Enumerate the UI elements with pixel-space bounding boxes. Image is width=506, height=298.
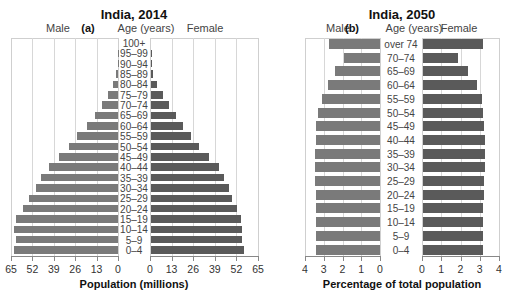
female-bar	[151, 226, 242, 234]
female-bar	[151, 112, 176, 120]
female-bar	[151, 91, 163, 99]
age-group-label: 0–4	[126, 245, 143, 256]
male-bar	[316, 217, 380, 227]
tick-label: 39	[209, 263, 221, 275]
female-bar	[151, 163, 219, 171]
age-group-label: 45–49	[387, 121, 415, 132]
female-bar	[423, 190, 484, 200]
female-bar	[423, 108, 483, 118]
female-bar	[151, 60, 152, 68]
tick-label: 13	[166, 263, 178, 275]
female-header: Female	[187, 22, 224, 34]
male-bar	[23, 205, 118, 213]
cropped-caption-strip	[0, 0, 506, 3]
age-group-label: 40–44	[387, 134, 415, 145]
female-bar	[423, 203, 483, 213]
age-group-label: 70–74	[387, 52, 415, 63]
age-group-label: 65–69	[120, 110, 148, 121]
male-bar	[49, 163, 118, 171]
tick-label: 4	[496, 263, 502, 275]
x-axis-label: Population (millions)	[80, 278, 189, 290]
age-group-label: 80–84	[120, 79, 148, 90]
female-bar	[151, 184, 229, 192]
male-bar	[16, 236, 118, 244]
age-group-label: 0–4	[393, 244, 410, 255]
age-group-label: 85–89	[120, 69, 148, 80]
tick-label: 13	[91, 263, 103, 275]
tick-label: 65	[252, 263, 264, 275]
age-group-label: 15–19	[120, 213, 148, 224]
female-bar	[423, 53, 458, 63]
age-header: Age (years)	[118, 22, 175, 34]
female-bar	[423, 39, 483, 49]
age-group-label: 50–54	[120, 141, 148, 152]
male-bar	[69, 143, 118, 151]
age-group-label: 20–24	[120, 203, 148, 214]
age-group-label: 35–39	[120, 172, 148, 183]
male-bar	[316, 121, 380, 131]
male-bar	[315, 176, 380, 186]
female-x-axis	[422, 256, 500, 257]
age-group-label: 40–44	[120, 162, 148, 173]
age-group-label: 35–39	[387, 148, 415, 159]
male-bar	[14, 226, 118, 234]
age-group-label: 25–29	[387, 176, 415, 187]
female-bar	[151, 174, 224, 182]
tick-label: 3	[477, 263, 483, 275]
age-group-label: 25–29	[120, 193, 148, 204]
male-x-axis	[11, 256, 119, 257]
female-bar	[423, 135, 485, 145]
age-group-label: 65–69	[387, 66, 415, 77]
age-group-label: 55–59	[387, 93, 415, 104]
female-bar	[151, 215, 241, 223]
female-header: Female	[441, 22, 478, 34]
male-bar	[316, 245, 380, 255]
tick-label: 0	[115, 263, 121, 275]
age-group-label: 95–99	[120, 48, 148, 59]
male-bar	[316, 135, 380, 145]
female-bar	[151, 153, 209, 161]
gridline	[32, 38, 33, 256]
age-group-label: 55–59	[120, 131, 148, 142]
gridline	[54, 38, 55, 256]
female-bar	[423, 245, 483, 255]
male-bar	[335, 66, 380, 76]
tick-label: 4	[302, 263, 308, 275]
female-bar	[151, 143, 199, 151]
female-x-axis	[150, 256, 259, 257]
male-bar	[316, 231, 380, 241]
male-header: Male	[46, 22, 70, 34]
female-bar	[423, 231, 483, 241]
age-group-label: 15–19	[387, 203, 415, 214]
female-bar	[423, 121, 484, 131]
age-group-label: 30–34	[387, 162, 415, 173]
age-group-label: 60–64	[120, 120, 148, 131]
chart-title: India, 2014	[101, 7, 167, 22]
gridline	[215, 38, 216, 256]
age-header: Age (years)	[386, 22, 443, 34]
female-bar	[423, 162, 485, 172]
tick-label: 2	[340, 263, 346, 275]
male-bar	[322, 94, 380, 104]
female-bar	[423, 149, 485, 159]
female-bar	[151, 101, 169, 109]
male-bar	[113, 81, 118, 89]
tick-label: 52	[231, 263, 243, 275]
age-group-label: 10–14	[387, 217, 415, 228]
male-bar	[41, 174, 118, 182]
age-group-label: over 74	[384, 39, 417, 50]
age-group-label: 30–34	[120, 182, 148, 193]
male-bar	[315, 149, 380, 159]
female-bar	[423, 176, 484, 186]
male-x-axis	[305, 256, 381, 257]
male-bar	[29, 195, 118, 203]
female-bar	[151, 70, 153, 78]
male-bar	[344, 53, 380, 63]
age-group-label: 5–9	[393, 230, 410, 241]
gridline	[236, 38, 237, 256]
tick-label: 26	[69, 263, 81, 275]
panel-letter: (b)	[345, 22, 359, 34]
tick-label: 0	[147, 263, 153, 275]
female-bar	[151, 122, 183, 130]
male-bar	[316, 203, 380, 213]
